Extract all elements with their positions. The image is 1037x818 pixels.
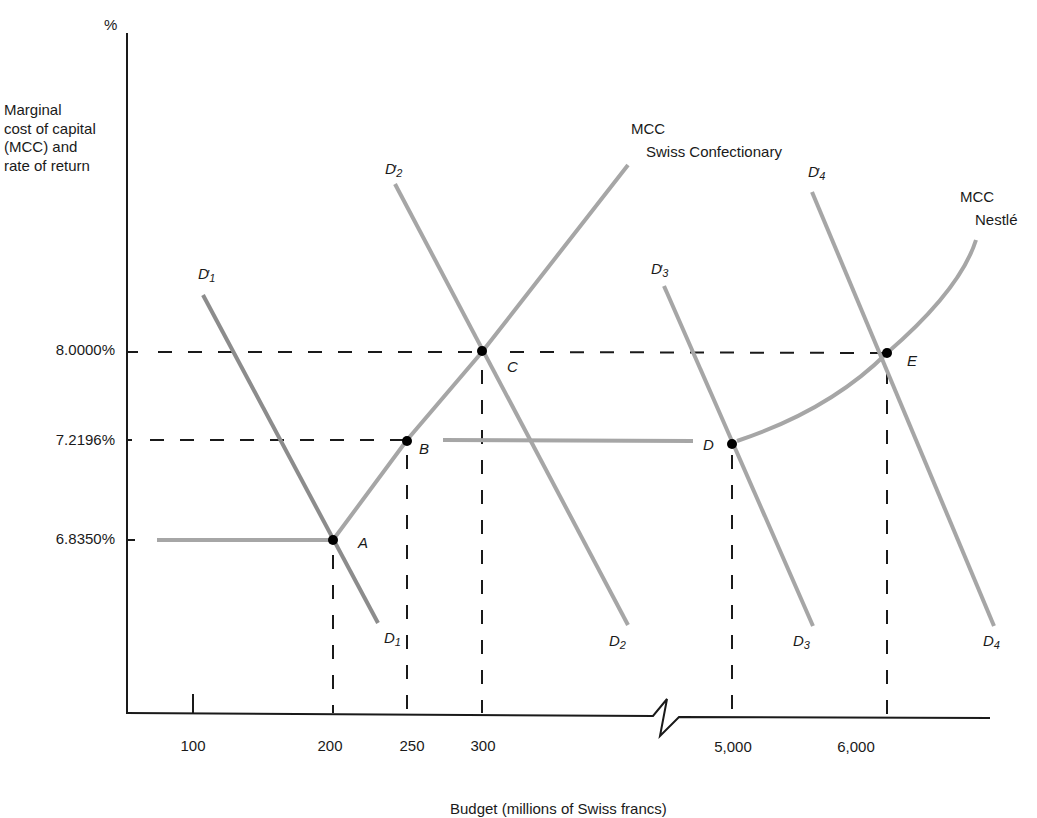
y-title-line-2: cost of capital: [4, 120, 96, 139]
subscript: 2: [620, 639, 626, 651]
mcc-nestle-label-2: Nestlé: [975, 211, 1018, 229]
point-label-d: D: [703, 436, 714, 454]
subscript: 4: [819, 170, 825, 182]
y-tick-label-8: 8.0000%: [5, 341, 115, 358]
x-tick-label-300: 300: [453, 737, 513, 754]
mcc-nestle-flat: [443, 440, 693, 441]
point-a: [328, 535, 338, 545]
demand-top-label-3: D′3: [651, 260, 668, 282]
subscript: 4: [994, 639, 1000, 651]
mcc-nestle-curve: [737, 240, 976, 441]
x-axis-title: Budget (millions of Swiss francs): [450, 800, 667, 818]
demand-line-3: [664, 286, 813, 626]
x-tick-label-200: 200: [300, 737, 360, 754]
mcc-swiss-label-1: MCC: [631, 120, 665, 138]
subscript: 3: [804, 639, 810, 651]
demand-bottom-label-2: D2: [609, 632, 626, 654]
demand-bottom-label-4: D4: [983, 632, 1000, 654]
y-axis-title: Marginal cost of capital (MCC) and rate …: [4, 101, 96, 175]
point-c: [477, 346, 487, 356]
point-label-b: B: [419, 440, 429, 458]
y-title-line-4: rate of return: [4, 157, 96, 176]
y-unit-label: %: [104, 16, 117, 34]
subscript: 2: [396, 167, 402, 179]
subscript: 3: [662, 267, 668, 279]
point-label-e: E: [907, 352, 917, 370]
x-tick-label-6000: 6,000: [826, 738, 886, 755]
x-axis: [126, 699, 990, 736]
demand-line-4: [812, 192, 994, 626]
point-label-c: C: [507, 358, 518, 376]
subscript: 1: [395, 636, 401, 648]
x-tick-label-250: 250: [382, 737, 442, 754]
point-label-a: A: [358, 534, 368, 552]
demand-top-label-1: D′1: [198, 265, 215, 287]
demand-line-1: [203, 295, 378, 623]
point-b: [402, 436, 412, 446]
y-title-line-3: (MCC) and: [4, 138, 96, 157]
demand-bottom-label-3: D3: [793, 632, 810, 654]
demand-top-label-4: D′4: [808, 163, 825, 185]
d-letter: D: [793, 632, 804, 649]
y-title-line-1: Marginal: [4, 101, 96, 120]
subscript: 1: [209, 272, 215, 284]
y-tick-label-68: 6.8350%: [5, 530, 115, 547]
point-e: [882, 348, 892, 358]
mcc-nestle-label-1: MCC: [960, 188, 994, 206]
mcc-swiss-label-2: Swiss Confectionary: [646, 143, 782, 161]
x-tick-label-5000: 5,000: [703, 738, 763, 755]
d-letter: D: [609, 632, 620, 649]
x-tick-label-100: 100: [163, 737, 223, 754]
d-letter: D: [384, 629, 395, 646]
point-d: [727, 439, 737, 449]
demand-line-2: [395, 184, 628, 625]
y-tick-label-72: 7.2196%: [5, 431, 115, 448]
demand-top-label-2: D′2: [385, 160, 402, 182]
d-letter: D: [983, 632, 994, 649]
demand-bottom-label-1: D1: [384, 629, 401, 651]
